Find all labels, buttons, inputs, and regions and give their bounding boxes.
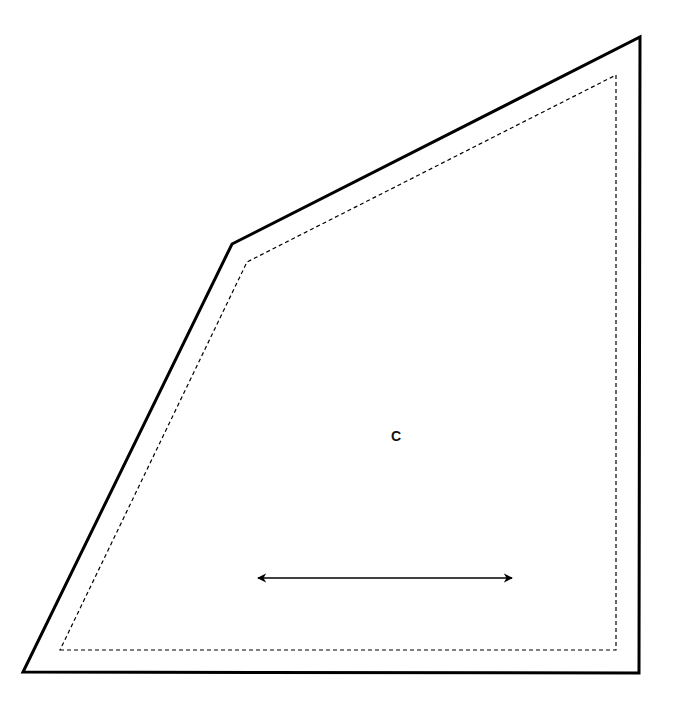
inner-seam-line: [60, 75, 616, 650]
pattern-piece-diagram: C: [0, 0, 673, 705]
piece-label: C: [391, 428, 401, 444]
